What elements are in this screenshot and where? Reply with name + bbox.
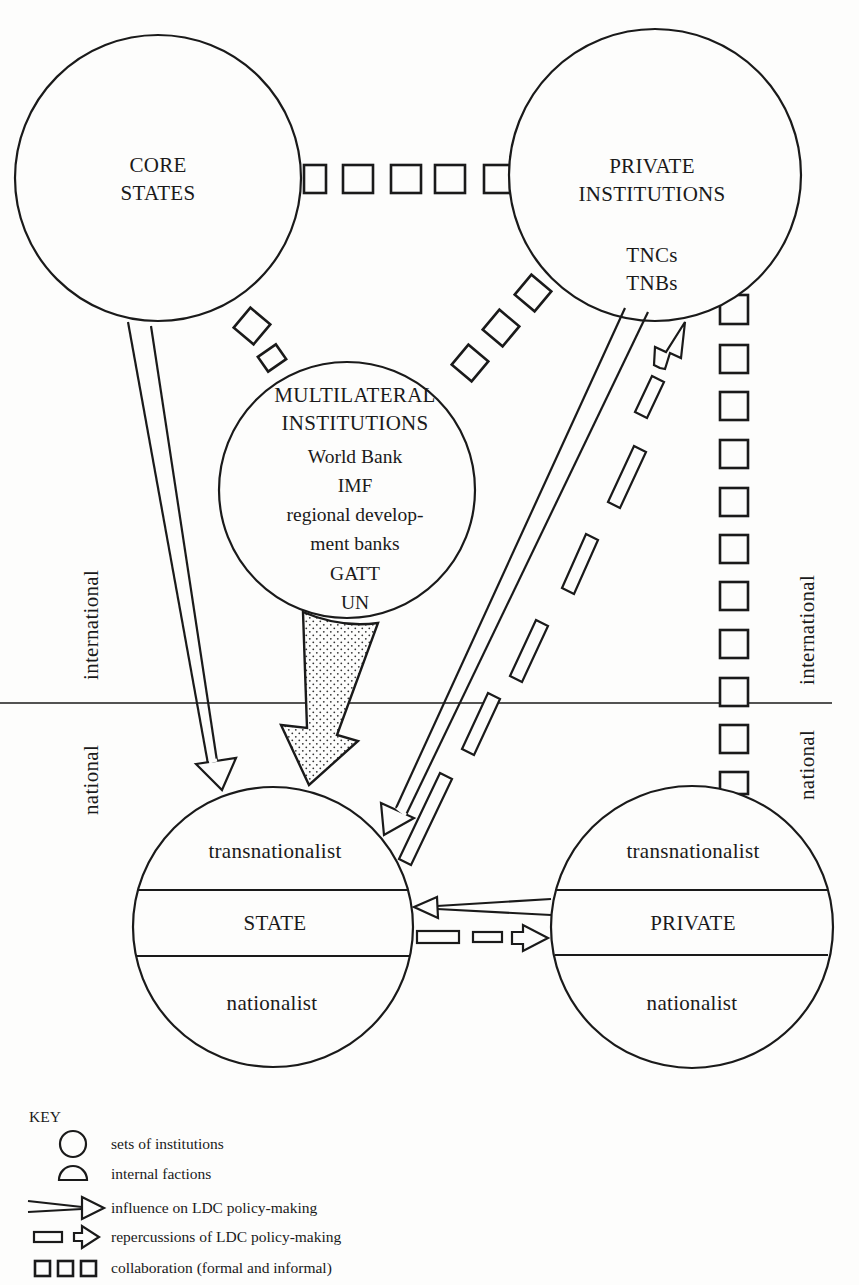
key-item-label: repercussions of LDC policy-making	[111, 1228, 342, 1245]
influence-arrow-core-to-state	[128, 322, 236, 790]
node-private-institutions[interactable]: PRIVATE INSTITUTIONS TNCs TNBs	[509, 29, 801, 321]
multilateral-label-2: INSTITUTIONS	[281, 411, 428, 435]
state-faction-transnationalist: transnationalist	[208, 839, 341, 863]
private-institutions-label-2: INSTITUTIONS	[578, 182, 725, 206]
multilateral-member: World Bank	[308, 446, 403, 467]
key-item-label: sets of institutions	[111, 1135, 224, 1152]
half-circle-icon	[59, 1166, 87, 1180]
multilateral-member: UN	[341, 592, 369, 613]
level-label-national-left: national	[79, 745, 103, 815]
private-faction-nationalist: nationalist	[647, 991, 738, 1015]
key-item-label: internal factions	[111, 1165, 211, 1182]
repercussion-arrow-icon	[34, 1226, 99, 1248]
repercussions-arrow-state-to-private	[417, 925, 548, 951]
node-private[interactable]: transnationalist PRIVATE nationalist	[551, 786, 833, 1068]
multilateral-member: regional develop-	[287, 504, 424, 525]
state-label: STATE	[244, 911, 307, 935]
collaboration-core-private	[304, 165, 510, 193]
influence-arrow-icon	[28, 1197, 104, 1219]
multilateral-member: IMF	[338, 475, 373, 496]
influence-arrow-private-to-state	[414, 897, 551, 918]
collaboration-squares-icon	[35, 1261, 96, 1276]
level-label-international-right: international	[795, 575, 819, 685]
private-label: PRIVATE	[650, 911, 736, 935]
key-item-label: influence on LDC policy-making	[111, 1199, 317, 1216]
node-multilateral-institutions[interactable]: MULTILATERAL INSTITUTIONS World Bank IMF…	[219, 362, 475, 618]
private-institutions-member: TNCs	[626, 243, 677, 267]
influence-arrow-multilateral-to-state	[281, 612, 378, 785]
level-label-national-right: national	[795, 730, 819, 800]
private-faction-transnationalist: transnationalist	[626, 839, 759, 863]
multilateral-label-1: MULTILATERAL	[274, 383, 435, 407]
level-label-international-left: international	[79, 570, 103, 680]
node-core-states[interactable]: CORE STATES	[15, 35, 301, 321]
multilateral-member: ment banks	[310, 533, 399, 554]
collaboration-private-institutions-private	[720, 295, 748, 794]
state-faction-nationalist: nationalist	[227, 991, 318, 1015]
key-item-label: collaboration (formal and informal)	[111, 1259, 332, 1277]
circle-icon	[60, 1131, 86, 1157]
key-title: KEY	[29, 1108, 61, 1125]
core-states-label-1: CORE	[129, 153, 186, 177]
private-institutions-label-1: PRIVATE	[609, 154, 695, 178]
ldc-policy-diagram: CORE STATES PRIVATE INSTITUTIONS TNCs TN…	[0, 0, 859, 1285]
collaboration-multilateral-private	[452, 275, 552, 382]
multilateral-member: GATT	[330, 563, 380, 584]
node-state[interactable]: transnationalist STATE nationalist	[133, 787, 413, 1067]
key-legend: KEY sets of institutions internal factio…	[28, 1108, 342, 1277]
core-states-label-2: STATES	[121, 181, 196, 205]
collaboration-core-multilateral	[234, 308, 286, 372]
private-institutions-member: TNBs	[626, 271, 677, 295]
